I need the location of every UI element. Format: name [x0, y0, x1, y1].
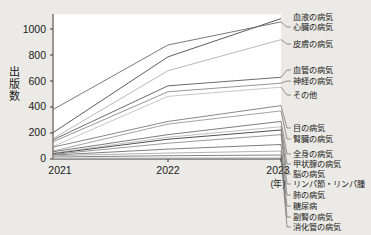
series-label-blood: 血液の病気: [293, 13, 333, 22]
leader-line: [281, 81, 291, 83]
series-line: [53, 157, 281, 158]
series-line: [53, 111, 281, 151]
series-line: [53, 106, 281, 148]
leader-line: [281, 70, 291, 77]
leader-line: [281, 87, 291, 95]
label-leader-lines: [281, 22, 291, 227]
leader-line: [281, 22, 291, 27]
series-label-digestive: 消化管の病気: [293, 223, 341, 232]
series-line: [53, 121, 281, 151]
series-line: [53, 77, 281, 140]
series-label-nerve: 神経の病気: [293, 77, 333, 86]
series-label-lung: 肺の病気: [293, 191, 325, 200]
series-label-vessel: 血管の病気: [293, 66, 333, 75]
series-label-kidney: 腎臓の病気: [293, 135, 333, 144]
series-label-systemic: 全身の病気: [293, 150, 333, 159]
series-label-skin: 皮膚の病気: [293, 40, 333, 49]
series-line: [53, 130, 281, 154]
series-lines: [53, 19, 281, 158]
series-label-other: その他: [293, 91, 317, 100]
series-label-lymph: リンパ節・リンパ腫: [293, 180, 365, 189]
series-label-brain: 脳の病気: [293, 170, 325, 179]
series-label-diabetes: 糖尿病: [293, 202, 317, 211]
series-line: [53, 19, 281, 133]
series-label-eye: 目の病気: [293, 124, 325, 133]
series-label-heart: 心臓の病気: [293, 23, 333, 32]
series-label-adrenal: 副腎の病気: [293, 213, 333, 222]
series-label-thyroid: 甲状腺の病気: [293, 160, 341, 169]
leader-line: [281, 40, 291, 44]
chart-figure: 出版数 1000 800 600 400 200 0 2021 2022 202…: [0, 0, 371, 235]
